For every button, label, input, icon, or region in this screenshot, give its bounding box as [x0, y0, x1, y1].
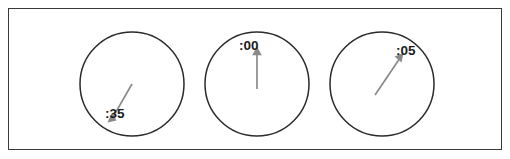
clock-label-1: :00: [239, 39, 259, 53]
clock-face-0: :35: [79, 31, 185, 137]
clock-face-2: :05: [329, 31, 435, 137]
clock-label-0: :35: [105, 107, 125, 121]
figure-border: :35 :00 :05: [8, 8, 502, 150]
clock-dial-icon-2: [329, 31, 435, 137]
clock-dial-icon-0: [79, 31, 185, 137]
figure-root: :35 :00 :05: [0, 0, 510, 159]
clock-label-2: :05: [396, 44, 416, 58]
clock-face-1: :00: [204, 31, 310, 137]
